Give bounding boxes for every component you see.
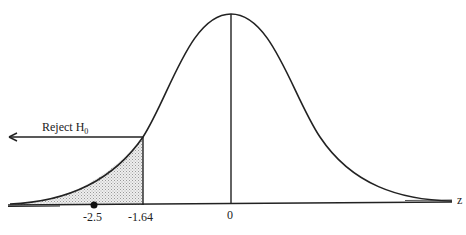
observed-tick-label: -2.5 [83,210,102,224]
axis-label: z [457,193,462,207]
center-tick-label: 0 [227,208,233,222]
observed-point-marker [91,202,98,209]
normal-curve-diagram: Reject H0 -2.5 -1.64 0 z [0,0,466,235]
rejection-region-shade [10,137,143,205]
reject-label: Reject H0 [42,120,88,136]
critical-tick-label: -1.64 [128,210,153,224]
